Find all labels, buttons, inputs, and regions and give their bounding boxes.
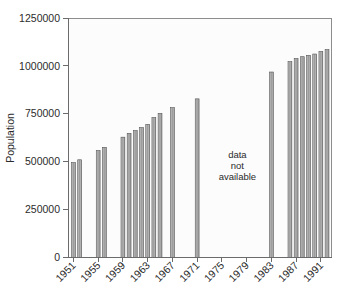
- plot-background: [68, 18, 332, 258]
- y-tick-label: 250000: [25, 203, 60, 215]
- note-line-1: data: [228, 149, 247, 160]
- bar: [102, 147, 106, 257]
- x-tick-label: 1963: [127, 259, 152, 284]
- x-tick-label: 1967: [152, 259, 177, 284]
- x-tick-label: 1959: [102, 259, 127, 284]
- y-tick-group: 025000050000075000010000001250000: [19, 12, 68, 264]
- bar: [121, 137, 125, 257]
- bar: [158, 113, 162, 257]
- bar: [269, 72, 273, 257]
- bar: [294, 59, 298, 258]
- x-tick-label: 1955: [78, 259, 103, 284]
- bar: [195, 99, 199, 258]
- bar: [325, 50, 329, 258]
- population-bar-chart: 025000050000075000010000001250000 195119…: [0, 0, 339, 302]
- bar: [127, 133, 131, 257]
- bar: [140, 128, 144, 258]
- note-line-2: not: [231, 160, 245, 171]
- y-axis-title: Population: [4, 113, 16, 163]
- y-tick-label: 750000: [25, 107, 60, 119]
- bar: [133, 131, 137, 258]
- x-tick-group: 1951195519591963196719711975197919831987…: [53, 258, 326, 284]
- bar: [319, 52, 323, 258]
- bar: [171, 108, 175, 258]
- bar: [313, 54, 317, 257]
- bar: [146, 124, 150, 257]
- bar: [72, 163, 76, 258]
- bar: [300, 57, 304, 258]
- x-tick-label: 1971: [177, 259, 202, 284]
- y-tick-label: 0: [54, 251, 60, 263]
- bar: [78, 160, 82, 258]
- x-tick-label: 1983: [251, 259, 276, 284]
- x-tick-label: 1975: [201, 259, 226, 284]
- y-tick-label: 500000: [25, 155, 60, 167]
- bar: [152, 118, 156, 258]
- chart-canvas: 025000050000075000010000001250000 195119…: [0, 0, 339, 302]
- note-line-3: available: [219, 171, 257, 182]
- y-tick-label: 1000000: [19, 60, 60, 72]
- x-tick-label: 1987: [276, 259, 301, 284]
- y-tick-label: 1250000: [19, 12, 60, 24]
- bar: [288, 62, 292, 258]
- bar: [96, 151, 100, 258]
- bar: [307, 55, 311, 257]
- x-tick-label: 1991: [300, 259, 325, 284]
- x-tick-label: 1979: [226, 259, 251, 284]
